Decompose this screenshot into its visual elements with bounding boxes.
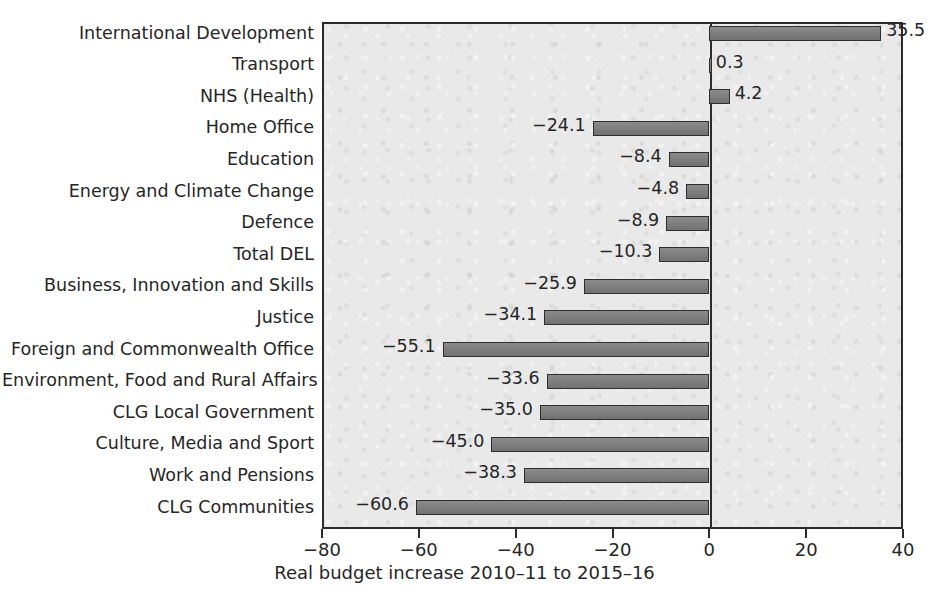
bar: [686, 184, 709, 199]
chart-row: Defence−8.9: [0, 213, 929, 245]
bar-shading: [710, 59, 711, 72]
bar: [669, 152, 710, 167]
value-label: −8.9: [0, 212, 659, 230]
bar: [709, 26, 881, 41]
bar: [659, 247, 709, 262]
chart-row: Transport0.3: [0, 55, 929, 87]
value-label: −4.8: [0, 180, 679, 198]
value-label: −34.1: [0, 306, 537, 324]
chart-row: Culture, Media and Sport−45.0: [0, 434, 929, 466]
bar: [547, 374, 710, 389]
bar: [666, 216, 709, 231]
bar-shading: [710, 90, 728, 103]
bar-shading: [444, 343, 709, 356]
x-tick-label: 0: [704, 541, 715, 559]
x-tick: [515, 529, 517, 538]
value-label: −35.0: [0, 401, 533, 419]
value-label: −45.0: [0, 433, 484, 451]
bar: [416, 500, 709, 515]
bar: [540, 405, 709, 420]
bar-shading: [710, 27, 880, 40]
category-label: NHS (Health): [2, 88, 314, 106]
x-tick-label: 20: [795, 541, 818, 559]
chart-row: CLG Communities−60.6: [0, 497, 929, 529]
bar-shading: [525, 469, 708, 482]
x-tick-label: −20: [594, 541, 632, 559]
bar-shading: [545, 311, 708, 324]
x-axis: −80−60−40−2002040: [322, 529, 903, 530]
bar-shading: [670, 153, 709, 166]
bar-shading: [585, 280, 708, 293]
bar: [709, 89, 729, 104]
bar: [443, 342, 710, 357]
x-tick-label: 40: [892, 541, 915, 559]
value-label: −55.1: [0, 338, 436, 356]
bar-chart: International Development35.5Transport0.…: [0, 0, 929, 589]
x-tick: [418, 529, 420, 538]
bar: [524, 468, 709, 483]
value-label: 0.3: [716, 54, 744, 72]
bar: [491, 437, 709, 452]
category-label: Transport: [2, 56, 314, 74]
chart-row: Foreign and Commonwealth Office−55.1: [0, 339, 929, 371]
value-label: 35.5: [886, 22, 925, 40]
chart-row: Education−8.4: [0, 149, 929, 181]
x-tick: [321, 529, 323, 538]
bar: [709, 58, 712, 73]
bar-shading: [687, 185, 708, 198]
bar-shading: [660, 248, 708, 261]
x-tick-label: −80: [303, 541, 341, 559]
value-label: −38.3: [0, 464, 517, 482]
bar: [584, 279, 709, 294]
chart-row: Business, Innovation and Skills−25.9: [0, 276, 929, 308]
bar-shading: [417, 501, 708, 514]
bar-shading: [492, 438, 708, 451]
x-tick: [805, 529, 807, 538]
x-tick: [902, 529, 904, 538]
chart-row: Justice−34.1: [0, 307, 929, 339]
value-label: −24.1: [0, 117, 586, 135]
value-label: 4.2: [735, 85, 763, 103]
value-label: −8.4: [0, 148, 662, 166]
chart-row: Work and Pensions−38.3: [0, 465, 929, 497]
chart-row: Environment, Food and Rural Affairs−33.6: [0, 371, 929, 403]
value-label: −25.9: [0, 275, 577, 293]
value-label: −33.6: [0, 370, 540, 388]
bar-shading: [548, 375, 709, 388]
value-label: −60.6: [0, 496, 409, 514]
chart-row: CLG Local Government−35.0: [0, 402, 929, 434]
bar: [593, 121, 710, 136]
chart-row: Energy and Climate Change−4.8: [0, 181, 929, 213]
chart-row: NHS (Health)4.2: [0, 86, 929, 118]
category-label: International Development: [2, 25, 314, 43]
chart-row: Home Office−24.1: [0, 118, 929, 150]
x-axis-title: Real budget increase 2010–11 to 2015–16: [0, 562, 929, 583]
x-tick: [612, 529, 614, 538]
bar: [544, 310, 709, 325]
x-tick: [708, 529, 710, 538]
value-label: −10.3: [0, 243, 652, 261]
bar-shading: [594, 122, 709, 135]
x-tick-label: −60: [400, 541, 438, 559]
chart-row: Total DEL−10.3: [0, 244, 929, 276]
bar-shading: [541, 406, 708, 419]
bar-shading: [667, 217, 708, 230]
x-tick-label: −40: [497, 541, 535, 559]
chart-row: International Development35.5: [0, 23, 929, 55]
